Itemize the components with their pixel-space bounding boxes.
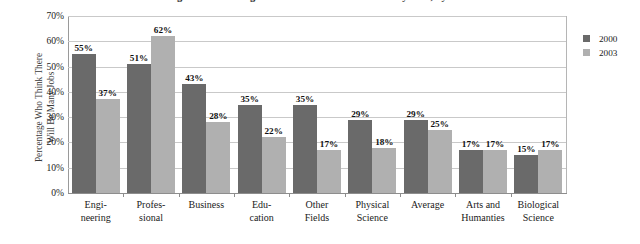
bar-2000[interactable]	[514, 155, 538, 193]
bar-group: 17%17%	[459, 16, 507, 193]
bar-value-label: 17%	[313, 139, 345, 149]
y-axis-tick-label: 40%	[30, 87, 64, 97]
bar-2003[interactable]	[96, 99, 120, 193]
bar-2000[interactable]	[72, 54, 96, 193]
bar-group: 15%17%	[514, 16, 562, 193]
bar-2000[interactable]	[459, 150, 483, 193]
bar-value-label: 62%	[147, 25, 179, 35]
x-axis-label-line-1: Biological	[505, 199, 572, 212]
y-axis-tick-label: 70%	[30, 11, 64, 21]
bar-2000[interactable]	[182, 84, 206, 193]
bar-group: 43%28%	[182, 16, 230, 193]
bar-value-label: 18%	[368, 137, 400, 147]
y-axis-tick-label: 10%	[30, 163, 64, 173]
bar-value-label: 35%	[234, 94, 266, 104]
plot-right-border	[566, 16, 567, 194]
x-axis-tick-mark	[345, 193, 346, 197]
legend-label-2003: 2003	[599, 48, 617, 58]
x-axis-tick-mark	[179, 193, 180, 197]
y-axis-tick-label: 60%	[30, 36, 64, 46]
x-axis-label-biological-science: BiologicalScience	[505, 199, 572, 224]
bar-2003[interactable]	[483, 150, 507, 193]
x-axis-tick-mark	[234, 193, 235, 197]
bar-2000[interactable]	[127, 64, 151, 193]
x-axis-line	[68, 193, 567, 194]
bar-2003[interactable]	[428, 130, 452, 193]
bar-group: 35%22%	[238, 16, 286, 193]
plot-area: 55%37%51%62%43%28%35%22%35%17%29%18%29%2…	[68, 16, 566, 193]
bar-2000[interactable]	[238, 105, 262, 194]
legend-item-2003[interactable]: 2003	[583, 47, 617, 58]
bar-group: 51%62%	[127, 16, 175, 193]
bar-value-label: 37%	[92, 88, 124, 98]
y-axis-tick-label: 0%	[30, 188, 64, 198]
bar-chart-figure: Figure 1. Percentage Who Think There Wil…	[0, 0, 640, 244]
bar-2003[interactable]	[538, 150, 562, 193]
bar-2000[interactable]	[404, 120, 428, 193]
bar-group: 29%18%	[348, 16, 396, 193]
bar-group: 35%17%	[293, 16, 341, 193]
bar-value-label: 35%	[289, 94, 321, 104]
x-axis-tick-mark	[455, 193, 456, 197]
bar-value-label: 17%	[479, 139, 511, 149]
bar-2000[interactable]	[348, 120, 372, 193]
bar-value-label: 43%	[178, 73, 210, 83]
legend-item-2000[interactable]: 2000	[583, 33, 617, 44]
legend-label-2000: 2000	[599, 34, 617, 44]
x-axis-tick-mark	[400, 193, 401, 197]
x-axis-tick-mark	[123, 193, 124, 197]
bar-value-label: 29%	[344, 109, 376, 119]
y-axis-tick-label: 20%	[30, 137, 64, 147]
bar-value-label: 28%	[202, 111, 234, 121]
bar-value-label: 55%	[68, 43, 100, 53]
bar-group: 55%37%	[72, 16, 120, 193]
bar-value-label: 22%	[258, 126, 290, 136]
bar-2003[interactable]	[262, 137, 286, 193]
legend-swatch-icon-2000	[583, 35, 590, 42]
bar-group: 29%25%	[404, 16, 452, 193]
bar-value-label: 29%	[400, 109, 432, 119]
x-axis-tick-mark	[289, 193, 290, 197]
x-axis-label-line-2: Science	[339, 212, 406, 225]
bar-value-label: 17%	[534, 139, 566, 149]
y-axis-tick-label: 50%	[30, 62, 64, 72]
chart-legend: 2000 2003	[583, 33, 617, 61]
bar-2003[interactable]	[317, 150, 341, 193]
bar-2003[interactable]	[206, 122, 230, 193]
y-axis-tick-label: 30%	[30, 112, 64, 122]
x-axis-tick-mark	[511, 193, 512, 197]
bar-2003[interactable]	[372, 148, 396, 194]
x-axis-label-line-2: sional	[117, 212, 184, 225]
x-axis-label-line-2: Science	[505, 212, 572, 225]
legend-swatch-icon-2003	[583, 49, 590, 56]
bar-2003[interactable]	[151, 36, 175, 193]
bar-value-label: 25%	[424, 119, 456, 129]
